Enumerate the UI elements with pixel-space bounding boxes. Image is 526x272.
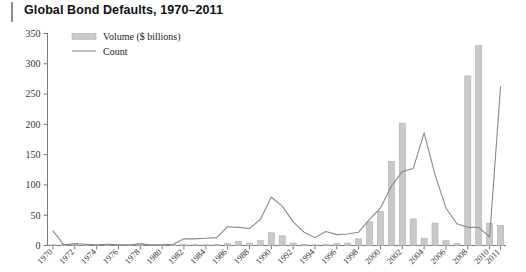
- x-axis-tick-label: 2008: [450, 247, 469, 266]
- volume-bar: [476, 46, 482, 246]
- count-line: [53, 87, 501, 245]
- volume-bar: [235, 241, 241, 245]
- volume-bar: [497, 226, 503, 246]
- volume-bar: [323, 244, 329, 245]
- volume-bar: [214, 244, 220, 245]
- x-axis-tick-label: 2002: [384, 247, 403, 266]
- y-axis-tick-label: 200: [26, 119, 41, 130]
- x-axis-tick-label: 1978: [122, 247, 141, 266]
- x-axis-tick-label: 2000: [363, 247, 382, 266]
- legend-label-count: Count: [103, 46, 128, 57]
- volume-bar: [334, 244, 340, 246]
- volume-bar: [50, 245, 56, 246]
- chart-figure: Global Bond Defaults, 1970–2011 05010015…: [0, 0, 526, 272]
- x-axis-tick-label: 1994: [297, 246, 317, 266]
- volume-bar: [268, 233, 274, 246]
- y-axis-tick-label: 50: [31, 210, 41, 221]
- volume-bar: [257, 241, 263, 246]
- volume-bar: [399, 123, 405, 245]
- x-axis-tick-label: 1972: [57, 247, 76, 266]
- x-axis-tick-label: 1992: [275, 247, 294, 266]
- volume-bar: [465, 76, 471, 246]
- y-axis-tick-label: 100: [26, 179, 41, 190]
- x-axis-tick-label: 1996: [319, 246, 339, 266]
- x-axis-tick-label: 1984: [188, 246, 208, 266]
- volume-bar: [301, 244, 307, 245]
- volume-bar: [421, 238, 427, 245]
- volume-bar: [377, 212, 383, 246]
- volume-bar: [192, 244, 198, 245]
- volume-bar: [181, 244, 187, 245]
- legend-swatch-volume: [72, 34, 96, 40]
- y-axis-tick-label: 0: [36, 240, 41, 251]
- x-axis-tick-label: 1976: [101, 246, 121, 266]
- x-axis-tick-label: 2004: [406, 246, 426, 266]
- legend-label-volume: Volume ($ billions): [103, 31, 181, 43]
- y-axis-tick-label: 350: [26, 28, 41, 39]
- x-axis-tick-label: 1974: [79, 246, 99, 266]
- volume-bar: [443, 241, 449, 246]
- y-axis-tick-label: 250: [26, 88, 41, 99]
- x-axis-tick-label: 2006: [428, 246, 448, 266]
- volume-bar: [454, 244, 460, 246]
- volume-bar: [345, 243, 351, 245]
- volume-bar: [432, 223, 438, 245]
- x-axis-tick-label: 1998: [341, 247, 360, 266]
- bond-defaults-chart: 0501001502002503003501970197219741976197…: [0, 0, 526, 272]
- x-axis-tick-label: 1990: [253, 247, 272, 266]
- volume-bar: [203, 245, 209, 246]
- volume-bar: [290, 243, 296, 245]
- volume-bar: [356, 239, 362, 246]
- volume-bar: [410, 219, 416, 246]
- volume-bar: [388, 161, 394, 245]
- volume-bar: [279, 236, 285, 246]
- y-axis-tick-label: 150: [26, 149, 41, 160]
- x-axis-tick-label: 1988: [232, 247, 251, 266]
- volume-bar: [225, 244, 231, 246]
- volume-bar: [246, 243, 252, 245]
- x-axis-tick-label: 1986: [210, 246, 230, 266]
- x-axis-tick-label: 1982: [166, 247, 185, 266]
- y-axis-tick-label: 300: [26, 58, 41, 69]
- volume-bar: [312, 245, 318, 246]
- x-axis-tick-label: 1980: [144, 247, 163, 266]
- volume-bar: [366, 222, 372, 246]
